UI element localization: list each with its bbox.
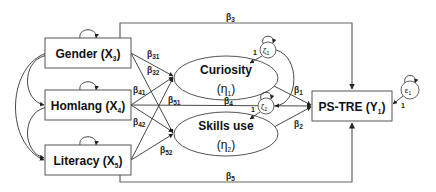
svg-text:(η1): (η1) <box>217 82 235 97</box>
error-epsilon1: ε1 1 <box>393 76 419 110</box>
mediator-to-outcome-paths <box>274 86 311 127</box>
node-skills-use[interactable]: Skills use (η2) <box>174 112 278 156</box>
svg-text:(η2): (η2) <box>217 138 235 153</box>
svg-text:1: 1 <box>251 106 255 113</box>
coef-b1: β1 <box>294 85 303 96</box>
coef-b41: β41 <box>133 85 146 96</box>
svg-text:1: 1 <box>253 49 257 56</box>
coef-b31: β31 <box>147 49 160 60</box>
svg-text:Literacy (X5): Literacy (X5) <box>54 154 123 169</box>
svg-text:Skills use: Skills use <box>198 119 254 133</box>
svg-text:Curiosity: Curiosity <box>200 63 252 77</box>
coef-b5: β5 <box>226 171 235 182</box>
coef-b51: β51 <box>168 95 181 106</box>
svg-text:Gender (X3): Gender (X3) <box>56 47 121 62</box>
path-beta4 <box>131 105 311 106</box>
coef-b32: β32 <box>147 65 160 76</box>
covariance-arcs <box>16 54 45 160</box>
coef-b42: β42 <box>133 117 146 128</box>
sem-diagram: Gender (X3) Homlang (X4) Literacy (X5) C… <box>0 0 436 192</box>
node-homlang[interactable]: Homlang (X4) <box>45 90 131 120</box>
svg-text:1: 1 <box>401 102 405 109</box>
coef-b2: β2 <box>294 119 303 130</box>
svg-text:PS-TRE (Y1): PS-TRE (Y1) <box>319 100 386 115</box>
coef-b3: β3 <box>226 12 235 23</box>
node-ps-tre[interactable]: PS-TRE (Y1) <box>312 91 392 121</box>
svg-text:Homlang (X4): Homlang (X4) <box>51 99 125 114</box>
node-gender[interactable]: Gender (X3) <box>45 38 131 68</box>
coef-b52: β52 <box>160 145 173 156</box>
node-literacy[interactable]: Literacy (X5) <box>45 145 131 175</box>
